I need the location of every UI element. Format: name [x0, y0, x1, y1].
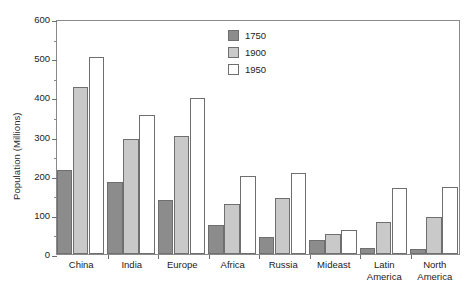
- y-minor-tick-mark: [54, 119, 57, 120]
- legend-item: 1950: [228, 61, 298, 78]
- y-tick-label: 0: [16, 249, 50, 260]
- x-tick-label: China: [56, 259, 107, 271]
- legend: 175019001950: [228, 27, 298, 78]
- y-minor-tick-mark: [54, 197, 57, 198]
- y-minor-tick-mark: [54, 158, 57, 159]
- x-tick-label: Latin America: [359, 259, 410, 282]
- bar: [259, 237, 275, 254]
- bar: [57, 170, 73, 254]
- x-tick-label: Mideast: [309, 259, 360, 271]
- bar-group: [360, 21, 411, 254]
- y-tick-label: 600: [16, 14, 50, 25]
- bar: [275, 198, 291, 254]
- y-tick-mark: [52, 21, 57, 22]
- population-bar-chart: Population (Millions) 010020030040050060…: [0, 0, 475, 297]
- x-tick-label: North America: [410, 259, 461, 282]
- bar: [392, 188, 408, 254]
- y-tick-mark: [52, 217, 57, 218]
- y-tick-mark: [52, 139, 57, 140]
- legend-swatch: [228, 30, 239, 41]
- y-minor-tick-mark: [54, 41, 57, 42]
- bar: [123, 139, 139, 254]
- legend-item: 1750: [228, 27, 298, 44]
- legend-swatch: [228, 64, 239, 75]
- bar: [426, 217, 442, 254]
- y-tick-mark: [52, 99, 57, 100]
- bar: [224, 204, 240, 254]
- y-minor-tick-mark: [54, 80, 57, 81]
- x-tick-label: Africa: [208, 259, 259, 271]
- y-tick-label: 400: [16, 92, 50, 103]
- bar: [360, 248, 376, 254]
- bar: [410, 249, 426, 254]
- y-tick-mark: [52, 256, 57, 257]
- bar: [208, 225, 224, 254]
- bar: [376, 222, 392, 254]
- bar: [174, 136, 190, 254]
- bar-group: [57, 21, 108, 254]
- y-tick-label: 100: [16, 210, 50, 221]
- bar-group: [310, 21, 361, 254]
- y-axis-title: Population (Millions): [11, 112, 22, 200]
- y-tick-mark: [52, 60, 57, 61]
- x-tick-label: India: [107, 259, 158, 271]
- bar: [309, 240, 325, 254]
- legend-swatch: [228, 47, 239, 58]
- bar-group: [158, 21, 209, 254]
- y-tick-label: 500: [16, 53, 50, 64]
- bar: [190, 98, 206, 254]
- legend-item: 1900: [228, 44, 298, 61]
- legend-label: 1900: [245, 47, 266, 58]
- y-tick-label: 200: [16, 171, 50, 182]
- bar: [325, 234, 341, 254]
- y-tick-label: 300: [16, 132, 50, 143]
- bar: [89, 57, 105, 254]
- bar: [158, 200, 174, 254]
- bar: [442, 187, 458, 254]
- bar: [73, 87, 89, 254]
- x-tick-label: Russia: [258, 259, 309, 271]
- x-tick-label: Europe: [157, 259, 208, 271]
- bar: [240, 176, 256, 254]
- bar: [341, 230, 357, 254]
- legend-label: 1950: [245, 64, 266, 75]
- y-minor-tick-mark: [54, 236, 57, 237]
- y-tick-mark: [52, 178, 57, 179]
- legend-label: 1750: [245, 30, 266, 41]
- bar-group: [108, 21, 159, 254]
- bar-group: [411, 21, 462, 254]
- bar: [107, 182, 123, 254]
- bar: [291, 173, 307, 254]
- bar: [139, 115, 155, 254]
